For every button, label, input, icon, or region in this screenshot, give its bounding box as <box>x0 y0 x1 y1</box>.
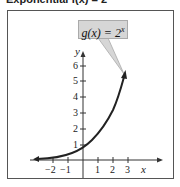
x-tick-label: 1 <box>95 164 100 175</box>
x-tick-label: −2 <box>45 164 56 175</box>
y-tick-label: 2 <box>73 123 78 134</box>
y-tick-label: 3 <box>73 107 78 118</box>
curve-left-arrow-icon <box>33 156 39 162</box>
function-label-exponent: x <box>121 25 125 34</box>
x-axis-label: x <box>141 163 146 175</box>
x-tick-label: 2 <box>110 164 115 175</box>
callout-pointer <box>98 38 124 74</box>
y-tick-label: 5 <box>73 75 78 86</box>
x-tick-label: 3 <box>125 164 130 175</box>
y-tick-label: 6 <box>73 60 78 71</box>
y-axis-arrow-icon <box>81 51 86 57</box>
y-axis-label: y <box>75 45 80 57</box>
y-tick-label: 1 <box>73 139 78 150</box>
y-tick-label: 4 <box>73 91 78 102</box>
curve-g <box>37 77 124 159</box>
function-label-text: g(x) = 2 <box>82 26 121 40</box>
function-label: g(x) = 2x <box>78 20 128 39</box>
x-tick-label: −1 <box>60 164 71 175</box>
x-axis-arrow-icon <box>157 158 163 163</box>
